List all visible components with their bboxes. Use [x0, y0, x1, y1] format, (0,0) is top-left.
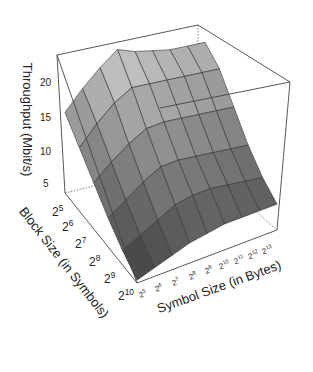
- block-tick-2-10: 210: [118, 289, 134, 303]
- z-tick-10: 10: [40, 146, 51, 157]
- block-tick-2-9: 29: [104, 272, 115, 286]
- block-tick-2-7: 27: [75, 237, 86, 251]
- z-tick-5: 5: [43, 178, 49, 189]
- block-tick-2-8: 28: [89, 255, 100, 269]
- z-tick-15: 15: [40, 112, 51, 123]
- z-axis-title: Throughput (Mbit/s): [20, 55, 35, 185]
- throughput-surface: [65, 42, 277, 280]
- block-tick-2-5: 25: [52, 205, 63, 219]
- block-tick-2-6: 26: [62, 220, 73, 234]
- z-tick-20: 20: [40, 77, 51, 88]
